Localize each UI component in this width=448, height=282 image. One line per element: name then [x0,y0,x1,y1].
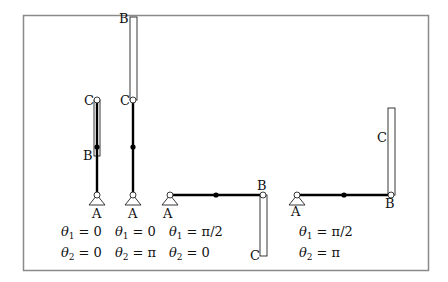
angle-equations: θ1= 0 θ2= 0 θ1= 0 θ2= π θ1= π/2 θ2= 0 θ1… [61,224,353,262]
theta1-eq-config-4: θ1= π/2 [299,224,353,241]
configuration-1: C B A [83,93,105,221]
label-b: B [385,196,395,211]
label-b: B [119,11,129,26]
theta1-eq-config-2: θ1= 0 [115,224,156,241]
link-midpoint-dot [94,144,99,149]
link-2-outline [130,17,137,100]
label-a: A [91,206,102,221]
joint-c [94,97,100,103]
theta1-eq-config-1: θ1= 0 [61,224,102,241]
linkage-diagram: C B A B C A B C A [0,0,448,282]
configuration-4: C B A [289,108,395,219]
label-c: C [250,248,260,263]
label-b: B [83,148,93,163]
joint-c [130,97,136,103]
configuration-2: B C A [119,11,141,221]
label-a: A [162,206,173,221]
theta2-eq-config-4: θ2= π [299,245,341,262]
pivot-support-a [125,192,141,205]
label-b: B [257,178,267,193]
label-c: C [377,130,387,145]
pivot-support-a [89,192,105,205]
theta2-eq-config-1: θ2= 0 [61,245,102,262]
label-c: C [120,93,130,108]
link-midpoint-dot [130,144,135,149]
label-a: A [290,204,301,219]
theta2-eq-config-2: θ2= π [115,245,157,262]
link-2-outline [388,108,395,195]
configuration-3: B C A [162,178,267,263]
link-2-outline [260,195,267,256]
theta1-eq-config-3: θ1= π/2 [169,224,223,241]
theta2-eq-config-3: θ2= 0 [169,245,210,262]
label-a: A [127,206,138,221]
link-midpoint-dot [213,192,218,197]
link-midpoint-dot [341,192,346,197]
label-c: C [84,93,94,108]
